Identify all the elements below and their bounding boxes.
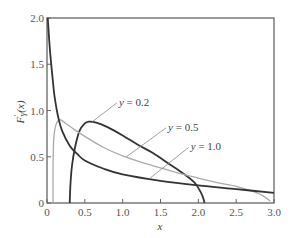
y-tick-label: 0.5 (30, 151, 44, 163)
curve-y-1-0 (48, 18, 274, 193)
y-tick-label: 1.5 (30, 58, 44, 70)
leader-line (92, 103, 116, 122)
x-tick-label: 2.5 (229, 206, 243, 218)
y-axis-title-arg: (x) (14, 100, 27, 113)
x-tick-label: 2.0 (191, 206, 205, 218)
label-y-1-0: y = 1.0 (190, 140, 222, 152)
y-tick-label: 2.0 (30, 12, 44, 24)
x-axis-title: x (157, 220, 163, 232)
y-axis-title: F'Y(x) (13, 100, 29, 124)
chart: 00.51.01.52.02.53.000.51.01.52.0 y = 0.2… (0, 0, 297, 238)
y-tick-label: 1.0 (30, 105, 44, 117)
x-tick-label: 3.0 (267, 206, 281, 218)
tick-labels: 00.51.01.52.02.53.000.51.01.52.0 (30, 12, 281, 218)
tick-marks (47, 18, 274, 203)
y-tick-label: 0 (39, 197, 45, 209)
x-tick-label: 1.0 (116, 206, 130, 218)
x-tick-label: 1.5 (154, 206, 168, 218)
label-y-0-5: y = 0.5 (167, 121, 199, 133)
svg-text:F'Y(x): F'Y(x) (13, 100, 29, 124)
curves (48, 18, 274, 203)
plot-frame (47, 18, 274, 203)
x-tick-label: 0.5 (78, 206, 92, 218)
x-tick-label: 0 (44, 206, 50, 218)
plot-border (47, 18, 274, 203)
label-y-0-2: y = 0.2 (118, 96, 149, 108)
annotations: y = 0.2y = 0.5y = 1.0 (118, 96, 222, 152)
